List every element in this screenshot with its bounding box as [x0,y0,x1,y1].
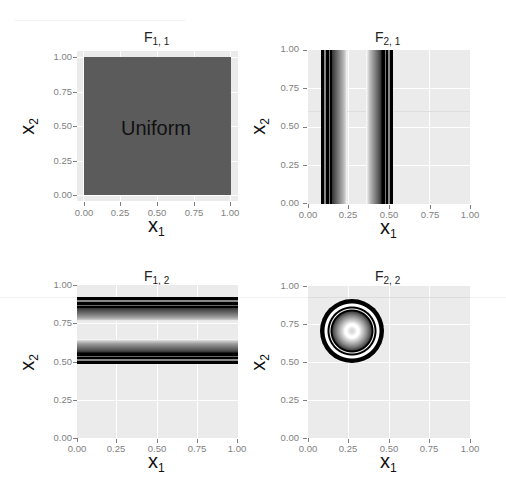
plot-area [77,285,238,438]
panel-title: F1, 1 [144,29,169,47]
x-tick-label: 0.75 [179,207,209,218]
y-tick-label: 0.00 [265,432,299,443]
y-axis-label: x2 [16,118,41,135]
faint-divider [15,20,185,21]
y-tick-label: 0.25 [265,394,299,405]
y-tick-label: 0.50 [38,356,72,367]
panel-title: F2, 1 [375,29,400,47]
plot-area [308,286,470,438]
density-band-1 [321,50,347,204]
y-tick-label: 0.75 [265,82,299,93]
panel-title: F2, 2 [375,268,400,286]
y-axis-label: x2 [247,354,272,371]
x-tick-label: 0.25 [101,443,131,454]
y-tick-label: 0.00 [38,189,72,200]
density-band-2 [77,339,238,364]
plot-area [308,50,470,204]
x-tick-label: 0.25 [105,207,135,218]
x-tick-label: 0.75 [182,443,212,454]
x-tick-label: 0.00 [293,209,323,220]
x-tick-label: 1.00 [222,443,252,454]
y-tick-label: 0.50 [38,120,72,131]
x-tick-label: 0.25 [333,443,363,454]
y-tick-label: 1.00 [38,51,72,62]
uniform-annotation: Uniform [121,117,191,140]
x-tick-label: 1.00 [455,443,485,454]
x-tick-label: 0.00 [62,443,92,454]
y-axis-label: x2 [16,354,41,371]
y-tick-label: 0.75 [38,317,72,328]
y-tick-label: 1.00 [265,43,299,54]
panel-title: F1, 2 [144,268,169,286]
x-tick-label: 1.00 [455,209,485,220]
y-axis-label: x2 [247,118,272,135]
y-tick-label: 1.00 [265,280,299,291]
x-axis-label: x1 [148,450,165,475]
y-tick-label: 0.75 [265,318,299,329]
x-tick-label: 0.00 [69,207,99,218]
x-axis-label: x1 [380,216,397,241]
density-band-2 [366,50,393,204]
x-tick-label: 0.00 [293,443,323,454]
x-tick-label: 1.00 [215,207,245,218]
density-rings [320,299,384,363]
y-tick-label: 1.00 [38,279,72,290]
x-tick-label: 0.25 [333,209,363,220]
y-tick-label: 0.25 [38,394,72,405]
y-tick-label: 0.00 [38,432,72,443]
y-tick-label: 0.25 [38,155,72,166]
x-axis-label: x1 [148,214,165,239]
y-tick-label: 0.75 [38,86,72,97]
y-tick-label: 0.25 [265,159,299,170]
density-band-1 [77,297,238,321]
y-tick-label: 0.00 [265,197,299,208]
x-tick-label: 0.75 [414,443,444,454]
x-axis-label: x1 [380,450,397,475]
x-tick-label: 0.75 [415,209,445,220]
